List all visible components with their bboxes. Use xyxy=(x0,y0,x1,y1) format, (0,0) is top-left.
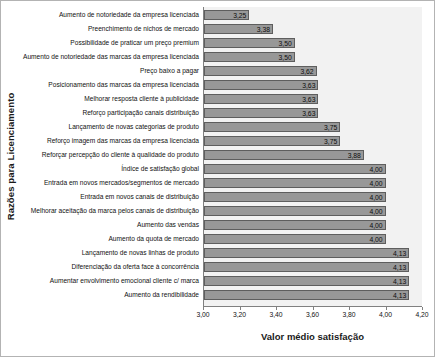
category-label: Reforço participação canais distribuição xyxy=(19,106,203,120)
bar-row: 3,88 xyxy=(204,148,422,162)
bar-value-label: 4,00 xyxy=(369,221,384,230)
category-label: Reforço imagem das marcas da empresa lic… xyxy=(19,134,203,148)
bar-series: 3,253,383,503,503,623,633,633,633,753,75… xyxy=(204,8,422,306)
y-axis-title: Razões para Licenciamento xyxy=(3,1,19,311)
bar-value-label: 3,38 xyxy=(257,25,272,34)
category-label: Posicionamento das marcas da empresa lic… xyxy=(19,78,203,92)
bar-row: 4,00 xyxy=(204,162,422,176)
category-label: Melhorar aceitação da marca pelos canais… xyxy=(19,204,203,218)
category-label: Aumento de notoriedade da empresa licenc… xyxy=(19,8,203,22)
bar: 4,00 xyxy=(204,178,386,188)
bar: 3,75 xyxy=(204,136,340,146)
bar-row: 4,00 xyxy=(204,176,422,190)
x-tick-label: 3,40 xyxy=(269,311,282,318)
x-axis: 3,003,203,403,603,804,004,20 xyxy=(203,307,422,325)
x-tick-mark xyxy=(203,307,204,310)
bar: 3,62 xyxy=(204,66,317,76)
category-label: Entrada em novos canais de distribuição xyxy=(19,190,203,204)
x-tick-mark xyxy=(422,307,423,310)
bar-row: 3,62 xyxy=(204,64,422,78)
bar-row: 3,75 xyxy=(204,120,422,134)
chart-figure: Razões para Licenciamento Aumento de not… xyxy=(0,0,435,357)
chart-body: Aumento de notoriedade da empresa licenc… xyxy=(19,7,422,307)
x-tick-mark xyxy=(386,307,387,310)
bar: 3,63 xyxy=(204,94,318,104)
category-label: Preço baixo a pagar xyxy=(19,64,203,78)
bar-row: 4,13 xyxy=(204,246,422,260)
x-tick-mark xyxy=(240,307,241,310)
bar-row: 4,00 xyxy=(204,190,422,204)
category-axis-labels: Aumento de notoriedade da empresa licenc… xyxy=(19,7,203,307)
category-label: Lançamento de novas linhas de produto xyxy=(19,246,203,260)
bar: 4,00 xyxy=(204,206,386,216)
bar-value-label: 3,62 xyxy=(300,67,315,76)
bar: 3,88 xyxy=(204,150,364,160)
bar-value-label: 3,75 xyxy=(324,123,339,132)
bar-value-label: 4,13 xyxy=(393,249,408,258)
bar-value-label: 4,00 xyxy=(369,165,384,174)
bar-value-label: 4,00 xyxy=(369,179,384,188)
bar-value-label: 3,63 xyxy=(302,109,317,118)
bar-row: 4,13 xyxy=(204,288,422,302)
bar-row: 3,25 xyxy=(204,8,422,22)
bar-row: 4,13 xyxy=(204,274,422,288)
bar: 3,50 xyxy=(204,38,295,48)
bar: 3,63 xyxy=(204,108,318,118)
category-label: Lançamento de novas categorias de produt… xyxy=(19,120,203,134)
bar: 4,13 xyxy=(204,262,409,272)
bar-row: 4,00 xyxy=(204,218,422,232)
bar-row: 3,50 xyxy=(204,36,422,50)
y-axis-title-text: Razões para Licenciamento xyxy=(6,92,17,220)
category-label: Aumentar envolvimento emocional cliente … xyxy=(19,274,203,288)
bar: 4,13 xyxy=(204,248,409,258)
category-label: Aumento da quota de mercado xyxy=(19,232,203,246)
bar-value-label: 3,50 xyxy=(279,53,294,62)
category-label: Diferenciação da oferta face à concorrên… xyxy=(19,260,203,274)
bar-value-label: 3,63 xyxy=(302,95,317,104)
bar-value-label: 4,00 xyxy=(369,207,384,216)
bar-row: 3,63 xyxy=(204,106,422,120)
x-tick-label: 3,60 xyxy=(306,311,319,318)
category-label: Aumento das vendas xyxy=(19,218,203,232)
x-tick-mark xyxy=(349,307,350,310)
bar: 4,00 xyxy=(204,234,386,244)
bar-value-label: 3,75 xyxy=(324,137,339,146)
bar-value-label: 4,13 xyxy=(393,277,408,286)
x-tick-label: 3,80 xyxy=(342,311,355,318)
category-label: Aumento da rendibilidade xyxy=(19,288,203,302)
bar-row: 3,38 xyxy=(204,22,422,36)
category-label: Melhorar resposta cliente à publicidade xyxy=(19,92,203,106)
bar-row: 4,00 xyxy=(204,232,422,246)
x-tick-mark xyxy=(313,307,314,310)
bar: 3,63 xyxy=(204,80,318,90)
bar-value-label: 4,00 xyxy=(369,235,384,244)
category-label: Possibilidade de praticar um preço premi… xyxy=(19,36,203,50)
bar-row: 3,75 xyxy=(204,134,422,148)
x-tick-label: 4,00 xyxy=(379,311,392,318)
bar-row: 4,13 xyxy=(204,260,422,274)
x-tick-label: 3,20 xyxy=(233,311,246,318)
bar: 4,00 xyxy=(204,220,386,230)
x-tick-mark xyxy=(276,307,277,310)
bar-value-label: 3,63 xyxy=(302,81,317,90)
bar-row: 3,50 xyxy=(204,50,422,64)
category-label: Aumento de notoriedade das marcas da emp… xyxy=(19,50,203,64)
bar-row: 3,63 xyxy=(204,78,422,92)
bar: 3,75 xyxy=(204,122,340,132)
bar: 4,13 xyxy=(204,276,409,286)
bar: 4,00 xyxy=(204,164,386,174)
x-tick-label: 3,00 xyxy=(196,311,209,318)
bar-value-label: 3,50 xyxy=(279,39,294,48)
bar: 3,50 xyxy=(204,52,295,62)
bar: 3,38 xyxy=(204,24,273,34)
bar-value-label: 4,13 xyxy=(393,263,408,272)
category-label: Índice de satisfação global xyxy=(19,162,203,176)
bar: 4,13 xyxy=(204,290,409,300)
bar-value-label: 3,25 xyxy=(233,11,248,20)
x-tick-label: 4,20 xyxy=(415,311,428,318)
plot-area: 3,253,383,503,503,623,633,633,633,753,75… xyxy=(203,7,422,307)
bar-value-label: 4,00 xyxy=(369,193,384,202)
x-axis-title: Valor médio satisfação xyxy=(203,331,422,342)
category-label: Preenchimento de nichos de mercado xyxy=(19,22,203,36)
category-label: Entrada em novos mercados/segmentos de m… xyxy=(19,176,203,190)
